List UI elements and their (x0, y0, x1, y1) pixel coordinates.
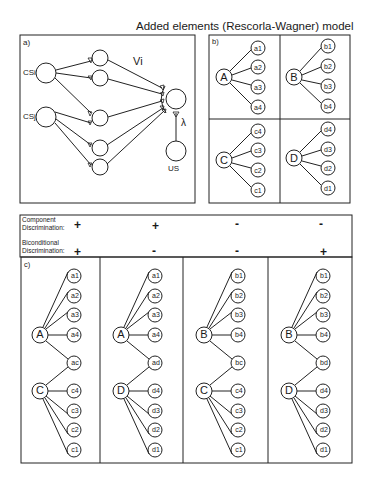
element-node: a2 (68, 292, 82, 299)
configural-element-node: bd (317, 359, 331, 366)
element-node: d2 (317, 426, 331, 433)
stim-node-bottom: D (283, 384, 295, 396)
element-node: c1 (232, 446, 246, 453)
stim-node-bottom: D (115, 384, 127, 396)
element-node: a2 (149, 292, 163, 299)
stim-node-top: B (198, 328, 210, 340)
stim-node-top: A (115, 328, 127, 340)
element-node: b4 (232, 331, 246, 338)
element-node: a1 (149, 272, 163, 279)
panel-c-graphic (0, 0, 370, 479)
element-node: b3 (232, 311, 246, 318)
element-node: a4 (68, 331, 82, 338)
stim-node-bottom: C (198, 384, 210, 396)
element-node: d4 (317, 387, 331, 394)
stim-node-top: B (283, 328, 295, 340)
element-node: c4 (232, 387, 246, 394)
element-node: d1 (317, 446, 331, 453)
element-node: a3 (149, 311, 163, 318)
configural-element-node: ad (149, 359, 163, 366)
element-node: b2 (317, 292, 331, 299)
element-node: c4 (68, 387, 82, 394)
element-node: b3 (317, 311, 331, 318)
element-node: d1 (149, 446, 163, 453)
configural-element-node: bc (232, 359, 246, 366)
element-node: b2 (232, 292, 246, 299)
element-node: d3 (149, 407, 163, 414)
element-node: b1 (232, 272, 246, 279)
element-node: d2 (149, 426, 163, 433)
element-node: a1 (68, 272, 82, 279)
element-node: c1 (68, 446, 82, 453)
element-node: c3 (68, 407, 82, 414)
element-node: c2 (232, 426, 246, 433)
element-node: b1 (317, 272, 331, 279)
configural-element-node: ac (68, 359, 82, 366)
element-node: a3 (68, 311, 82, 318)
element-node: b4 (317, 331, 331, 338)
stim-node-top: A (34, 328, 46, 340)
stim-node-bottom: C (34, 384, 46, 396)
element-node: c3 (232, 407, 246, 414)
element-node: d4 (149, 387, 163, 394)
element-node: c2 (68, 426, 82, 433)
panel-c-label: c) (24, 260, 30, 269)
element-node: a4 (149, 331, 163, 338)
element-node: d3 (317, 407, 331, 414)
